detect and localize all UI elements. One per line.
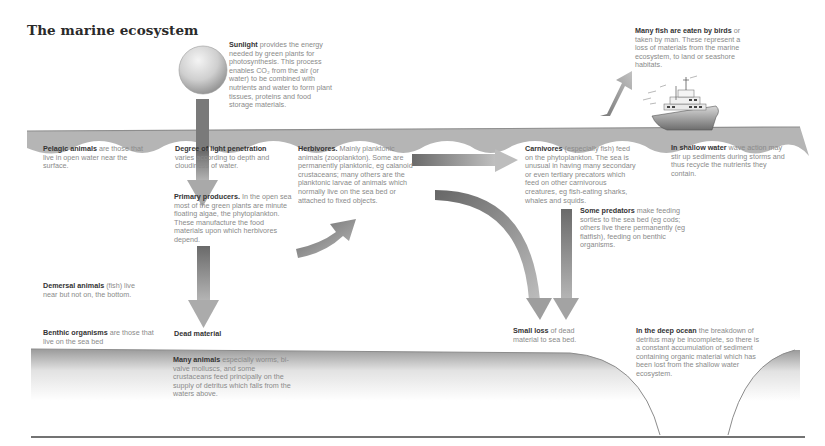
- label-carnivores: Carnivores (especially fish) feed on the…: [525, 145, 638, 205]
- producers-to-herbivores-arrow-icon: [296, 219, 356, 258]
- herbivores-to-seabed-arrow-icon: [435, 190, 552, 320]
- label-primary-producers: Primary producers. In the open sea most …: [174, 193, 292, 245]
- label-shallow-water: In shallow water wave action may stir up…: [671, 144, 786, 178]
- page-title: The marine ecosystem: [27, 22, 199, 38]
- label-body: provides the energy needed by green plan…: [229, 40, 332, 109]
- ship-icon: [643, 76, 719, 130]
- label-heading: Dead material: [174, 329, 221, 338]
- label-pelagic: Pelagic animals are those that live in o…: [43, 145, 153, 171]
- label-body: In the open sea most of the green plants…: [174, 192, 291, 244]
- label-light-penetration: Degree of light penetration varies accor…: [175, 145, 275, 171]
- label-body: the breakdown of detritus may be incompl…: [636, 326, 759, 378]
- herbivores-to-carnivores-arrow-icon: [412, 149, 518, 172]
- label-body: varies according to depth and cloudiness…: [175, 153, 269, 171]
- label-body: (especially fish) feed on the phytoplank…: [525, 144, 636, 205]
- label-body: Mainly planktonic animals (zooplankton).…: [298, 144, 413, 205]
- carnivores-to-seabed-arrow-icon: [553, 209, 579, 320]
- label-herbivores: Herbivores. Mainly planktonic animals (z…: [298, 145, 420, 205]
- sun-icon: [179, 46, 227, 94]
- label-deep-ocean: In the deep ocean the breakdown of detri…: [636, 327, 764, 379]
- dead-material-arrow-icon: [188, 246, 219, 328]
- label-some-predators: Some predators make feeding sorties to t…: [580, 207, 700, 250]
- label-birds: Many fish are eaten by birds or taken by…: [635, 27, 750, 70]
- label-dead-material: Dead material: [174, 330, 254, 339]
- label-demersal: Demersal animals (fish) live near but no…: [43, 282, 143, 299]
- birds-loss-arrow-icon: [600, 71, 632, 116]
- label-sunlight: Sunlight provides the energy needed by g…: [229, 41, 334, 110]
- label-many-animals: Many animals especially worms, bi-valve …: [173, 356, 291, 399]
- label-small-loss: Small loss of dead material to sea bed.: [513, 327, 598, 344]
- label-benthic: Benthic organisms are those that live on…: [43, 329, 161, 346]
